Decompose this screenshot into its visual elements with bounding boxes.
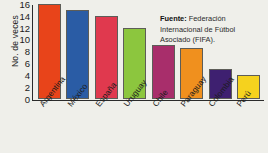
y-axis-tick-labels: 0246810121416	[14, 0, 30, 105]
y-tick-6: 6	[14, 59, 30, 69]
y-tick-16: 16	[14, 0, 30, 10]
x-axis-tick-labels: ArgentinaMéxicoEspañaUruguayChileParagua…	[32, 103, 264, 153]
y-tick-8: 8	[14, 48, 30, 58]
y-tick-2: 2	[14, 83, 30, 93]
source-note-label: Fuente:	[160, 14, 187, 23]
y-tick-14: 14	[14, 12, 30, 22]
y-tick-12: 12	[14, 24, 30, 34]
y-tick-0: 0	[14, 95, 30, 105]
y-tick-10: 10	[14, 36, 30, 46]
bar-chart-figure: No. de veces 0246810121416 ArgentinaMéxi…	[0, 0, 268, 153]
source-note: Fuente: Federación Internacional de Fútb…	[160, 14, 264, 46]
y-tick-4: 4	[14, 71, 30, 81]
